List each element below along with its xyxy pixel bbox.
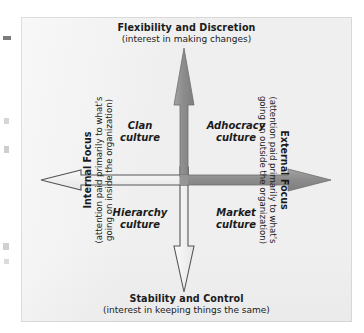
quadrant-label-hierarchy: Hierarchy culture	[97, 207, 183, 231]
top-axis-subtitle: (interest in making changes)	[21, 34, 352, 45]
quadrant-hierarchy-line2: culture	[120, 219, 160, 230]
axis-arrows-group	[21, 17, 352, 322]
right-axis-title: External Focus	[279, 95, 291, 243]
quadrant-market-line2: culture	[216, 219, 256, 230]
quadrant-hierarchy-line1: Hierarchy	[113, 207, 168, 218]
quadrant-label-clan: Clan culture	[97, 120, 183, 144]
left-axis-title: Internal Focus	[82, 96, 94, 243]
quadrant-adhocracy-line2: culture	[216, 132, 256, 143]
quadrant-clan-line2: culture	[120, 132, 160, 143]
bottom-axis-subtitle: (interest in keeping things the same)	[21, 305, 352, 316]
quadrant-clan-line1: Clan	[128, 120, 153, 131]
page-edge-artifact	[4, 146, 9, 153]
bottom-axis-label: Stability and Control (interest in keepi…	[21, 293, 352, 316]
top-axis-title: Flexibility and Discretion	[21, 22, 352, 33]
flexibility-and-discretion-arrow	[174, 48, 194, 177]
quadrant-adhocracy-line1: Adhocracy	[207, 120, 266, 131]
external-focus-arrow	[180, 169, 331, 191]
page-edge-artifact	[3, 36, 11, 40]
competing-values-framework-diagram: Flexibility and Discretion (interest in …	[21, 17, 352, 322]
top-axis-label: Flexibility and Discretion (interest in …	[21, 22, 352, 45]
quadrant-label-adhocracy: Adhocracy culture	[193, 120, 279, 144]
quadrant-label-market: Market culture	[193, 207, 279, 231]
page-edge-artifact	[3, 243, 9, 250]
bottom-axis-title: Stability and Control	[21, 293, 352, 304]
quadrant-market-line1: Market	[216, 207, 256, 218]
page-edge-artifact	[4, 118, 9, 124]
vertical-shaft-overlap	[180, 175, 188, 185]
page-edge-artifact	[4, 259, 9, 264]
